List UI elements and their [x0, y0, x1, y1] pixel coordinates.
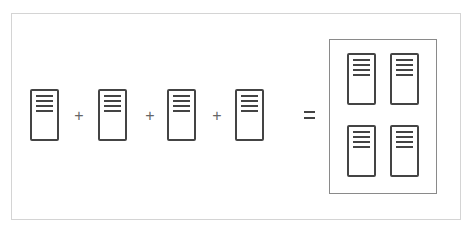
cluster-server-icon — [390, 125, 419, 177]
cluster-server-icon — [347, 53, 376, 105]
plus-operator: + — [143, 108, 157, 124]
server-icon — [235, 89, 264, 141]
server-icon — [167, 89, 196, 141]
plus-operator: + — [210, 108, 224, 124]
cluster-server-icon — [390, 53, 419, 105]
server-icon — [30, 89, 59, 141]
server-cluster-box — [329, 39, 437, 194]
cluster-server-icon — [347, 125, 376, 177]
equals-operator: = — [304, 111, 315, 119]
server-icon — [98, 89, 127, 141]
plus-operator: + — [72, 108, 86, 124]
